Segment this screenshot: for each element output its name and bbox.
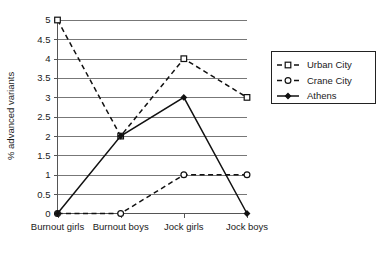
y-tick-label: 4.5: [37, 34, 50, 45]
x-category-label: Burnout boys: [93, 221, 149, 232]
chart-legend[interactable]: Urban CityCrane CityAthens: [272, 52, 376, 104]
line-chart: 00.511.522.533.544.55 Burnout girlsBurno…: [0, 0, 382, 256]
legend-label[interactable]: Crane City: [307, 75, 352, 86]
x-category-label: Jock boys: [226, 221, 268, 232]
legend-label[interactable]: Athens: [307, 90, 337, 101]
y-tick-label: 3.5: [37, 72, 50, 83]
y-tick-label: 2: [45, 131, 50, 142]
y-tick-label: 0: [45, 208, 50, 219]
y-tick-label: 0.5: [37, 189, 50, 200]
legend-marker: [285, 62, 291, 68]
y-tick-label: 3: [45, 92, 50, 103]
y-tick-label: 2.5: [37, 111, 50, 122]
data-point-marker: [55, 17, 61, 23]
data-point-marker: [181, 56, 187, 62]
data-point-marker: [244, 172, 250, 178]
data-point-marker: [181, 172, 187, 178]
x-category-label: Burnout girls: [31, 221, 85, 232]
y-tick-label: 4: [45, 53, 50, 64]
chart-figure: 00.511.522.533.544.55 Burnout girlsBurno…: [0, 0, 382, 256]
x-category-label: Jock girls: [164, 221, 204, 232]
data-point-marker: [118, 211, 124, 217]
legend-marker: [285, 78, 291, 84]
y-axis-title: % advanced variants: [5, 72, 16, 160]
legend-label[interactable]: Urban City: [307, 59, 352, 70]
data-point-marker: [244, 95, 250, 101]
y-tick-label: 5: [45, 14, 50, 25]
y-tick-label: 1: [45, 169, 50, 180]
y-tick-label: 1.5: [37, 150, 50, 161]
